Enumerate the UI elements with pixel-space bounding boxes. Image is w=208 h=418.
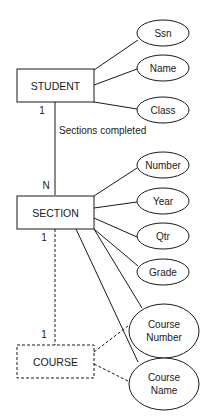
entity-course-label: COURSE (33, 356, 78, 368)
cardinality-student: 1 (39, 105, 45, 116)
attribute-grade-label: Grade (149, 267, 177, 278)
attribute-class: Class (137, 97, 189, 123)
entity-course: COURSE (17, 345, 94, 378)
edge-course-course-number (94, 326, 128, 352)
attribute-class-label: Class (150, 105, 175, 116)
attribute-course-name-label-1: Course (148, 372, 181, 383)
attribute-ssn-label: Ssn (154, 28, 171, 39)
attribute-year-label: Year (153, 196, 174, 207)
edge-section-number (94, 168, 137, 196)
cardinality-course-1: 1 (41, 329, 47, 340)
edge-student-ssn (94, 40, 138, 70)
attribute-course-number-label-1: Course (148, 319, 181, 330)
attribute-course-name: Course Name (129, 358, 199, 410)
attribute-year: Year (137, 188, 189, 214)
attribute-number: Number (137, 152, 189, 178)
attribute-ssn: Ssn (137, 20, 189, 46)
attribute-name: Name (137, 55, 189, 81)
edge-section-year (94, 202, 137, 208)
edge-student-class (94, 102, 137, 109)
edge-student-name (94, 69, 137, 85)
attribute-qtr: Qtr (137, 223, 189, 249)
relationship-label-sections-completed: Sections completed (59, 125, 146, 136)
edge-section-course-number (94, 229, 142, 308)
entity-student: STUDENT (17, 69, 94, 102)
entity-section-label: SECTION (32, 207, 79, 219)
attribute-qtr-label: Qtr (156, 231, 171, 242)
entity-section: SECTION (17, 196, 94, 229)
attribute-course-number: Course Number (129, 304, 199, 358)
attribute-number-label: Number (145, 160, 181, 171)
cardinality-section-1: 1 (41, 232, 47, 243)
attribute-name-label: Name (150, 63, 177, 74)
er-diagram: STUDENT SECTION COURSE Ssn Name Class Nu… (0, 0, 208, 418)
attribute-course-name-label-2: Name (151, 385, 178, 396)
cardinality-section-n: N (42, 180, 49, 191)
entity-student-label: STUDENT (31, 80, 81, 92)
attribute-course-number-label-2: Number (146, 332, 182, 343)
attribute-grade: Grade (137, 259, 189, 285)
edge-course-course-name (94, 364, 128, 381)
